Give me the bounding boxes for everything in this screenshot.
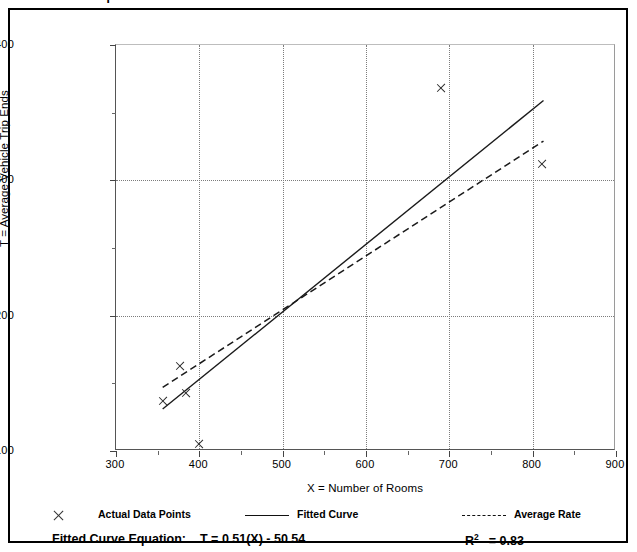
legend-label: Average Rate: [514, 508, 581, 520]
x-tick-major: [616, 451, 617, 457]
x-tick-label: 900: [590, 458, 637, 470]
equation-row: Fitted Curve Equation: T = 0.51(X) - 50.…: [10, 532, 637, 552]
r-squared-symbol: R: [465, 534, 474, 548]
plot-area: [115, 44, 615, 450]
y-tick-label: 400: [0, 38, 14, 50]
x-tick-major: [199, 451, 200, 457]
y-tick-label: 100: [0, 444, 14, 456]
x-tick-minor: [574, 451, 575, 455]
fitted-equation-value: T = 0.51(X) - 50.54: [200, 532, 305, 546]
x-tick-label: 800: [507, 458, 557, 470]
x-tick-label: 700: [423, 458, 473, 470]
x-tick-major: [366, 451, 367, 457]
fitted-equation-label: Fitted Curve Equation:: [52, 532, 186, 546]
legend-label: Actual Data Points: [98, 508, 191, 520]
x-tick-label: 300: [90, 458, 140, 470]
y-tick-major: [110, 451, 116, 452]
r-squared-exponent: 2: [474, 532, 479, 542]
x-tick-label: 600: [340, 458, 390, 470]
legend: Actual Data Points Fitted Curve Average …: [10, 508, 637, 528]
x-tick-minor: [491, 451, 492, 455]
page-title: Data Plot and Equation: [9, 0, 148, 3]
x-tick-minor: [241, 451, 242, 455]
fitted-curve-equation: Fitted Curve Equation: T = 0.51(X) - 50.…: [52, 532, 305, 546]
x-tick-label: 500: [257, 458, 307, 470]
y-tick-label: 200: [0, 309, 14, 321]
x-tick-major: [283, 451, 284, 457]
fitted-curve-line: [163, 100, 544, 409]
figure-frame: T = Average Vehicle Trip Ends X = Number…: [8, 8, 628, 543]
x-tick-major: [533, 451, 534, 457]
dashed-line-icon: [462, 515, 506, 516]
solid-line-icon: [245, 515, 289, 516]
r-squared-number: = 0.83: [489, 534, 524, 548]
x-axis-title: X = Number of Rooms: [115, 482, 615, 494]
x-tick-major: [449, 451, 450, 457]
legend-label: Fitted Curve: [297, 508, 358, 520]
x-tick-minor: [324, 451, 325, 455]
plot-inner: [116, 45, 614, 449]
x-tick-label: 400: [173, 458, 223, 470]
x-tick-minor: [408, 451, 409, 455]
trend-lines: [116, 45, 616, 451]
x-tick-minor: [158, 451, 159, 455]
x-cross-icon: [52, 509, 65, 522]
r-squared-value: R2 = 0.83: [465, 532, 524, 548]
y-axis-title: T = Average Vehicle Trip Ends: [0, 90, 10, 247]
x-tick-major: [116, 451, 117, 457]
average-rate-line: [163, 141, 544, 387]
y-tick-label: 300: [0, 173, 14, 185]
